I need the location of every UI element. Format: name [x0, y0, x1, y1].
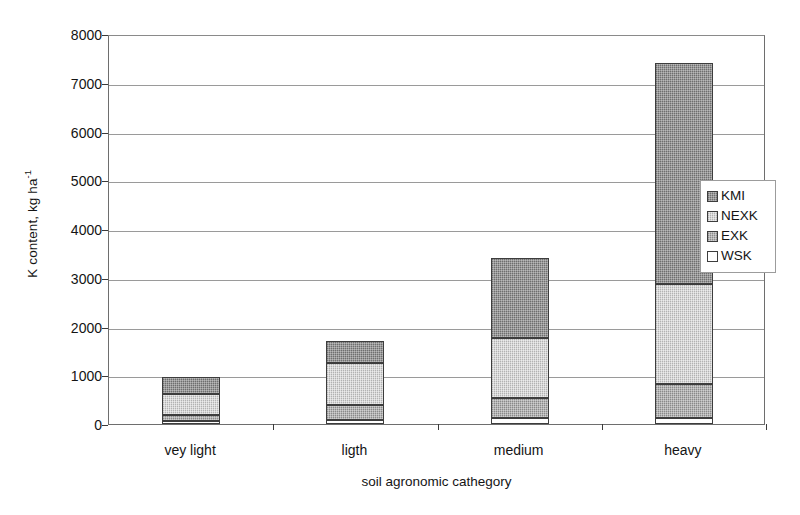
x-axis-tick-label: heavy — [613, 442, 753, 458]
bar-segment-WSK[interactable] — [162, 421, 220, 424]
y-axis-tick-label: 2000 — [48, 321, 102, 335]
legend-label: WSK — [721, 249, 752, 263]
bar-segment-NEXK[interactable] — [491, 338, 549, 397]
y-axis-title-text: K content, kg ha — [25, 179, 40, 278]
bar-segment-EXK[interactable] — [326, 405, 384, 420]
legend-label: NEXK — [721, 209, 758, 223]
bar-segment-EXK[interactable] — [655, 384, 713, 418]
bar-vey-light[interactable] — [162, 377, 220, 424]
legend-label: EXK — [721, 229, 748, 243]
legend-item-KMI[interactable]: KMI — [707, 186, 775, 206]
legend-swatch-EXK-icon — [707, 231, 718, 242]
bar-segment-NEXK[interactable] — [655, 284, 713, 384]
legend-swatch-NEXK-icon — [707, 211, 718, 222]
bar-segment-EXK[interactable] — [162, 415, 220, 421]
y-axis-tick-label: 1000 — [48, 369, 102, 383]
bar-medium[interactable] — [491, 258, 549, 424]
x-axis-tick-label: medium — [449, 442, 589, 458]
plot-area — [108, 35, 765, 425]
y-axis-tick-label: 4000 — [48, 223, 102, 237]
bar-chart: K content, kg ha-1 800070006000500040003… — [0, 0, 800, 515]
y-axis-title: K content, kg ha-1 — [22, 144, 40, 304]
y-axis-tick-labels: 800070006000500040003000200010000 — [42, 0, 102, 515]
x-axis-tick-mark — [438, 424, 439, 430]
x-axis-tick-label: ligth — [284, 442, 424, 458]
legend-swatch-KMI-icon — [707, 191, 718, 202]
legend-label: KMI — [721, 189, 745, 203]
y-axis-tick-mark — [102, 425, 108, 426]
y-axis-tick-label: 7000 — [48, 77, 102, 91]
y-axis-tick-label: 6000 — [48, 126, 102, 140]
y-axis-tick-label: 8000 — [48, 28, 102, 42]
y-axis-tick-label: 5000 — [48, 174, 102, 188]
x-axis-tick-mark — [602, 424, 603, 430]
bar-segment-WSK[interactable] — [655, 418, 713, 424]
x-axis-tick-mark — [766, 424, 767, 430]
bar-segment-NEXK[interactable] — [326, 363, 384, 405]
bar-segment-KMI[interactable] — [491, 258, 549, 338]
chart-legend: KMINEXKEXKWSK — [700, 180, 776, 273]
legend-item-WSK[interactable]: WSK — [707, 246, 775, 266]
legend-swatch-WSK-icon — [707, 251, 718, 262]
x-axis-title: soil agronomic cathegory — [108, 474, 765, 489]
y-axis-title-exponent: -1 — [22, 170, 33, 179]
legend-item-NEXK[interactable]: NEXK — [707, 206, 775, 226]
bar-segment-NEXK[interactable] — [162, 394, 220, 415]
bar-segment-KMI[interactable] — [326, 341, 384, 363]
bar-segment-WSK[interactable] — [326, 420, 384, 424]
bar-segment-WSK[interactable] — [491, 418, 549, 424]
bar-ligth[interactable] — [326, 341, 384, 424]
bar-segment-KMI[interactable] — [162, 377, 220, 394]
x-axis-tick-label: vey light — [120, 442, 260, 458]
legend-item-EXK[interactable]: EXK — [707, 226, 775, 246]
bar-segment-EXK[interactable] — [491, 398, 549, 418]
x-axis-tick-mark — [273, 424, 274, 430]
y-axis-tick-label: 0 — [48, 418, 102, 432]
y-axis-tick-label: 3000 — [48, 272, 102, 286]
